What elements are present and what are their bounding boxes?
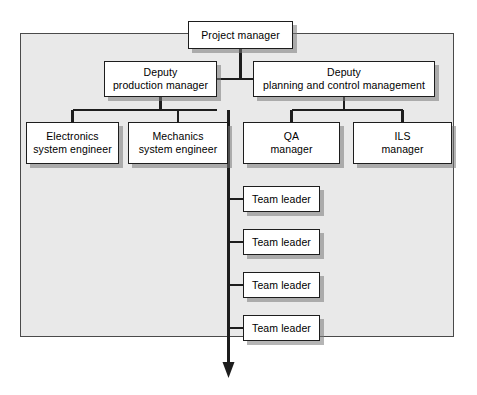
node-electronics-system-engineer: Electronics system engineer [26,122,119,164]
node-deputy-production-manager-line1: Deputy [113,66,208,79]
node-mechanics-system-engineer: Mechanics system engineer [128,122,228,164]
node-mechanics-line1: Mechanics [139,130,218,143]
node-qa-manager: QA manager [243,122,340,164]
node-qa-line2: manager [270,143,312,156]
node-deputy-production-manager: Deputy production manager [104,61,217,97]
node-electronics-line1: Electronics [33,130,112,143]
node-mechanics-line2: system engineer [139,143,218,156]
node-team-leader-label: Team leader [252,279,311,292]
node-team-leader: Team leader [243,186,320,212]
node-project-manager-line1: Project manager [201,29,280,42]
node-qa-line1: QA [270,130,312,143]
node-ils-line2: manager [381,143,423,156]
node-electronics-line2: system engineer [33,143,112,156]
node-team-leader-label: Team leader [252,193,311,206]
node-team-leader-label: Team leader [252,322,311,335]
node-deputy-production-manager-line2: production manager [113,79,208,92]
connector-lines [0,0,477,395]
node-team-leader: Team leader [243,229,320,255]
node-team-leader: Team leader [243,315,320,341]
node-project-manager: Project manager [188,21,293,49]
node-team-leader: Team leader [243,272,320,298]
node-ils-line1: ILS [381,130,423,143]
node-ils-manager: ILS manager [353,122,452,164]
trunk-arrowhead [223,362,235,378]
node-team-leader-label: Team leader [252,236,311,249]
node-deputy-planning-and-control-management: Deputy planning and control management [253,61,435,97]
org-chart-figure: Project manager Deputy production manage… [0,0,477,395]
node-deputy-planning-line2: planning and control management [263,79,425,92]
node-deputy-planning-line1: Deputy [263,66,425,79]
